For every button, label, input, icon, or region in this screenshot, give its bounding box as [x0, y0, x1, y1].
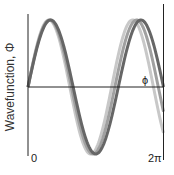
x-end-label: 2π — [148, 152, 162, 164]
wavefunction-diagram — [0, 0, 174, 175]
x-start-label: 0 — [31, 152, 37, 164]
y-axis-label: Wavefunction, Φ — [3, 37, 17, 137]
phi-symbol-label: ϕ — [142, 74, 148, 86]
